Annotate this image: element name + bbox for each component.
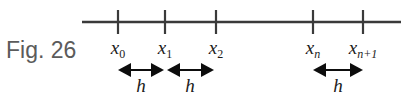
tick-x0-label: x0 xyxy=(111,38,125,60)
tick-x1-label: x1 xyxy=(158,38,172,60)
arrow-h-2-label: h xyxy=(333,76,343,96)
tick-xn-label: xn xyxy=(306,38,320,60)
figure-container: Fig. 26 x0x1x2xnxn+1 hhh xyxy=(0,0,407,100)
tick-xn1-label: xn+1 xyxy=(349,38,378,60)
arrow-head-right xyxy=(151,63,164,77)
arrow-h-1-label: h xyxy=(185,76,195,96)
subscript: n xyxy=(314,47,320,61)
subscript: 1 xyxy=(166,47,172,61)
subscript: 2 xyxy=(217,47,223,61)
subscript: 0 xyxy=(119,47,125,61)
arrow-head-left xyxy=(313,63,326,77)
arrow-head-left xyxy=(118,63,131,77)
arrow-h-0-label: h xyxy=(136,76,146,96)
spacing-arrows-group xyxy=(118,63,363,77)
arrow-head-left xyxy=(167,63,180,77)
arrow-head-right xyxy=(201,63,214,77)
figure-caption: Fig. 26 xyxy=(6,37,76,63)
tick-x2-label: x2 xyxy=(209,38,223,60)
subscript: n+1 xyxy=(357,47,377,61)
arrow-head-right xyxy=(350,63,363,77)
